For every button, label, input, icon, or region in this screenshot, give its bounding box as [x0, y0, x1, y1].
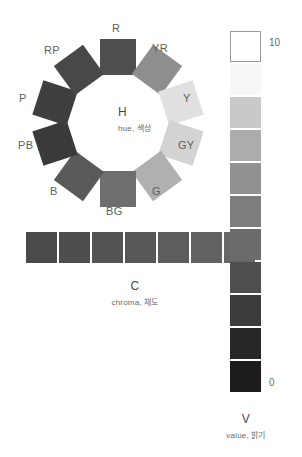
value-tick-bottom: 0 [269, 377, 275, 388]
value-swatch [230, 262, 261, 293]
hue-label-pb: PB [18, 139, 33, 151]
hue-label-gy: GY [178, 139, 195, 151]
hue-label-g: G [152, 185, 161, 197]
chroma-swatch [125, 232, 156, 263]
chroma-caption: chroma, 채도 [62, 296, 208, 307]
value-caption: value, 밝기 [196, 429, 296, 440]
chroma-swatch [92, 232, 123, 263]
chroma-swatch [59, 232, 90, 263]
value-swatch [230, 130, 261, 161]
chroma-swatch [158, 232, 189, 263]
hue-label-r: R [112, 22, 120, 34]
value-symbol: V [196, 412, 296, 426]
value-swatch [230, 229, 261, 260]
hue-label-y: Y [183, 92, 191, 104]
hue-label-yr: YR [152, 42, 168, 54]
chroma-symbol: C [62, 279, 208, 293]
hue-label-b: B [50, 185, 58, 197]
value-swatch [230, 64, 261, 95]
value-swatch [230, 31, 261, 62]
value-swatch [230, 328, 261, 359]
chroma-swatch [191, 232, 222, 263]
value-swatch [230, 295, 261, 326]
value-swatch [230, 196, 261, 227]
value-swatch [230, 361, 261, 392]
chroma-swatch [26, 232, 57, 263]
value-tick-top: 10 [269, 37, 280, 48]
munsell-diagram: RYRYGYGBGBPBPRP H hue, 색상 C chroma, 채도 1… [0, 0, 302, 457]
value-swatch [230, 97, 261, 128]
hue-wheel: RYRYGYGBGBPBPRP H hue, 색상 [0, 0, 210, 225]
chroma-swatch-row [26, 232, 255, 263]
hue-label-bg: BG [106, 205, 123, 217]
hue-label-p: P [19, 92, 27, 104]
value-swatch [230, 163, 261, 194]
hue-swatch-r [100, 39, 136, 75]
hue-swatch-bg [100, 171, 136, 207]
chroma-caption-block: C chroma, 채도 [62, 279, 208, 307]
hue-label-rp: RP [44, 44, 60, 56]
value-swatch-column [230, 31, 261, 392]
value-caption-block: V value, 밝기 [196, 412, 296, 440]
